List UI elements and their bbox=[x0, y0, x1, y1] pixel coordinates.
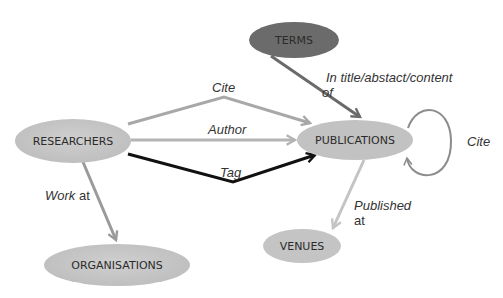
node-publications[interactable]: PUBLICATIONS bbox=[297, 120, 413, 160]
edge-label-author: Author bbox=[207, 122, 247, 137]
edge-in-title bbox=[271, 56, 360, 117]
edge-self-cite bbox=[407, 110, 451, 175]
diagram-canvas: TERMS RESEARCHERS PUBLICATIONS ORGANISAT… bbox=[0, 0, 503, 298]
node-terms-label: TERMS bbox=[274, 34, 313, 47]
edge-label-work-at-plain: at bbox=[75, 188, 90, 203]
node-publications-label: PUBLICATIONS bbox=[315, 134, 395, 147]
edge-label-in-title-line2: of bbox=[322, 85, 334, 100]
edge-label-published-line2: at bbox=[354, 213, 365, 228]
edge-label-work-at: Work at bbox=[45, 188, 90, 203]
edge-label-published-line1: Published bbox=[354, 198, 412, 213]
node-researchers[interactable]: RESEARCHERS bbox=[15, 119, 131, 163]
node-organisations[interactable]: ORGANISATIONS bbox=[44, 244, 190, 286]
edge-label-self-cite: Cite bbox=[467, 134, 490, 149]
edge-label-tag: Tag bbox=[220, 165, 242, 180]
edge-label-work-at-italic: Work bbox=[45, 188, 77, 203]
node-organisations-label: ORGANISATIONS bbox=[71, 259, 163, 272]
edge-cite bbox=[128, 97, 310, 124]
node-venues[interactable]: VENUES bbox=[263, 229, 341, 263]
node-terms[interactable]: TERMS bbox=[249, 22, 339, 58]
edge-label-cite: Cite bbox=[212, 80, 235, 95]
node-researchers-label: RESEARCHERS bbox=[33, 135, 114, 148]
edge-label-in-title-line1: In title/abstact/content bbox=[326, 70, 454, 85]
node-venues-label: VENUES bbox=[280, 240, 325, 253]
